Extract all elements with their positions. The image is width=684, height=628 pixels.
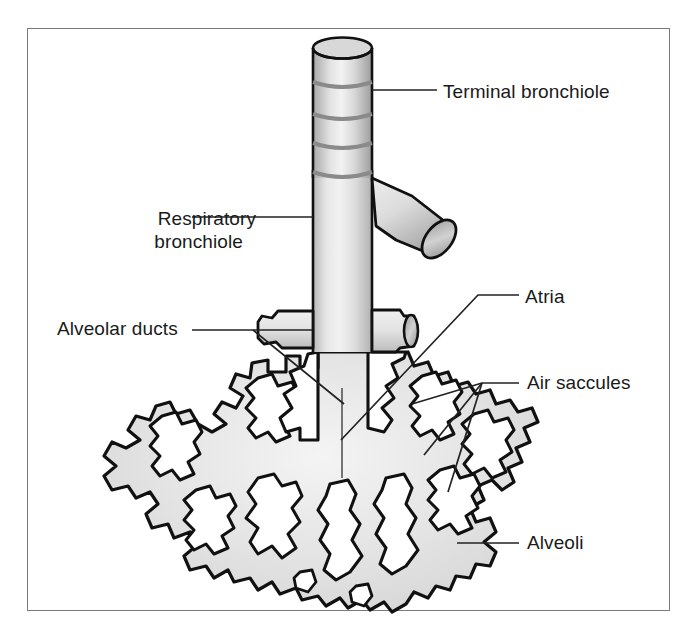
alveolar-sac-cluster [104,344,538,612]
label-respiratory-bronchiole-line1: Respiratory [158,208,256,229]
label-air-saccules: Air saccules [527,371,631,394]
respiratory-bronchiole-trunk [313,170,372,352]
cut-branch-opening [372,178,463,264]
label-respiratory-bronchiole: Respiratorybronchiole [58,207,256,253]
alveolus [246,474,302,558]
label-terminal-bronchiole: Terminal bronchiole [443,80,610,103]
label-respiratory-bronchiole-line2: bronchiole [58,230,256,253]
figure-root: Terminal bronchiole Respiratorybronchiol… [0,0,684,628]
alveolar-duct-right [372,310,418,352]
terminal-bronchiole-tube [313,38,372,179]
label-alveoli: Alveoli [527,531,584,554]
alveolar-duct-opening [404,315,418,347]
label-alveolar-ducts: Alveolar ducts [57,317,178,340]
label-atria: Atria [525,285,565,308]
